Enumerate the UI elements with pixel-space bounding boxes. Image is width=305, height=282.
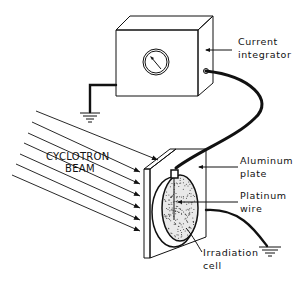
irradiation-cell: [152, 175, 198, 247]
beam-line: [12, 175, 140, 231]
current-integrator-box: [116, 16, 213, 96]
plate-ground-icon: [259, 247, 281, 256]
meter-dial-icon: [143, 49, 169, 75]
label-irradiation-cell-1: Irradiation: [203, 247, 259, 258]
label-platinum-wire-1: Platinum: [240, 190, 287, 201]
label-irradiation-cell-2: cell: [203, 260, 222, 271]
irradiation-setup-diagram: Current integrator CYCLOTRON BEAM Alumin…: [0, 0, 305, 282]
label-aluminum-plate-1: Aluminum: [240, 155, 293, 166]
cell-cap: [171, 170, 178, 178]
label-cyclotron-beam-2: BEAM: [65, 163, 95, 174]
label-current-integrator-1: Current: [238, 36, 278, 47]
integrator-ground-icon: [80, 113, 100, 122]
plate-ground-wire: [206, 210, 267, 246]
label-platinum-wire-2: wire: [240, 203, 262, 214]
plate-leader-arrow: [198, 165, 203, 169]
cell-leader: [186, 228, 202, 252]
signal-cable: [176, 71, 262, 168]
label-current-integrator-2: integrator: [238, 49, 291, 60]
integrator-ground-wire: [90, 85, 116, 112]
integrator-leader-arrow: [205, 48, 210, 52]
label-cyclotron-beam-1: CYCLOTRON: [46, 151, 110, 162]
label-aluminum-plate-2: plate: [240, 168, 267, 179]
